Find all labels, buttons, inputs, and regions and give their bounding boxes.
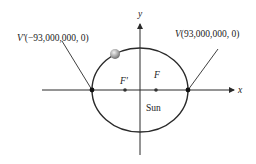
focus-f-label: F [153,70,160,80]
v-leader-line [188,49,218,90]
focus-f-prime-point [123,88,127,92]
v-label: V(93,000,000, 0) [175,29,239,40]
x-axis-label: x [237,85,243,95]
y-axis-label: y [137,9,143,19]
ellipse-orbit-diagram: V'(−93,000,000, 0) V(93,000,000, 0) y x … [0,0,256,164]
focus-f-prime-label: F' [119,76,129,86]
sun-label: Sun [146,103,161,113]
v-prime-leader-line [62,41,92,90]
vertex-v-point [186,88,191,93]
vertex-v-prime-point [90,88,95,93]
planet-icon [110,49,120,59]
focus-f-point [154,88,158,92]
v-prime-label: V'(−93,000,000, 0) [17,33,89,44]
